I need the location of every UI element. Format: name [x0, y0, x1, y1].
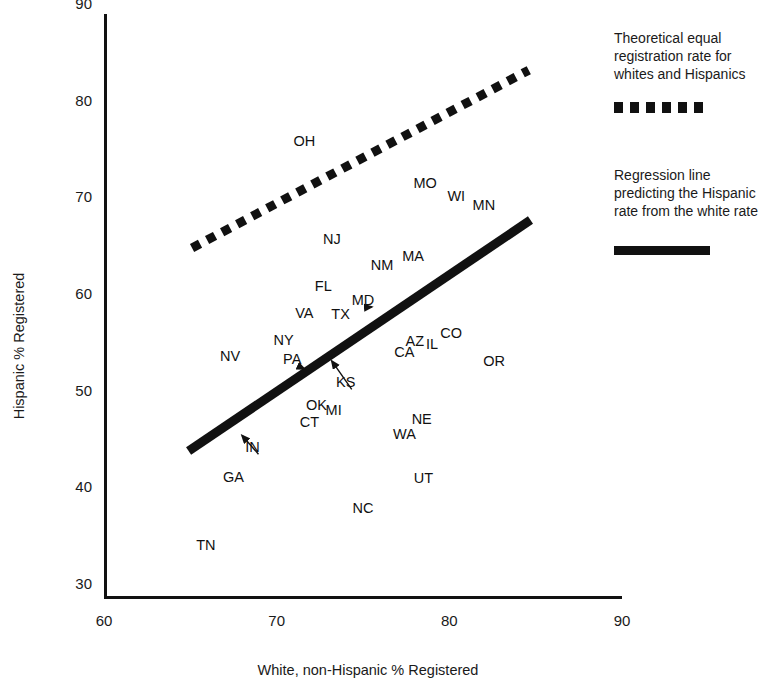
- legend-swatch-solid-line: [614, 246, 710, 255]
- data-point-label: UT: [414, 471, 433, 486]
- data-point-label: GA: [223, 470, 244, 485]
- y-tick-label: 40: [75, 478, 92, 495]
- y-axis-title: Hispanic % Registered: [11, 236, 27, 456]
- data-point-label: VA: [295, 306, 313, 321]
- data-point-label: CO: [440, 326, 462, 341]
- data-point-label: MD: [352, 293, 375, 308]
- x-tick-label: 80: [441, 612, 458, 629]
- data-point-label: TN: [196, 538, 215, 553]
- legend-entry-theoretical: Theoretical equal registration rate for …: [614, 30, 759, 113]
- data-point-label: IL: [426, 336, 438, 351]
- legend: Theoretical equal registration rate for …: [614, 30, 759, 265]
- data-point-label: MI: [326, 403, 342, 418]
- data-point-label: NM: [371, 258, 394, 273]
- data-point-label: WA: [393, 426, 416, 441]
- data-point-label: TX: [331, 307, 350, 322]
- x-tick-label: 60: [96, 612, 113, 629]
- legend-label-regression: Regression line predicting the Hispanic …: [614, 167, 759, 221]
- data-point-label: CT: [300, 415, 319, 430]
- x-axis-line: [104, 596, 622, 599]
- x-tick-label: 90: [614, 612, 631, 629]
- data-point-label: KS: [336, 375, 355, 390]
- data-point-label: CA: [394, 345, 414, 360]
- y-tick-label: 90: [75, 0, 92, 12]
- scatter-plot-figure: White, non-Hispanic % Registered Hispani…: [0, 0, 762, 699]
- y-axis-ticks: 90807060504030: [58, 0, 92, 585]
- data-point-label: IN: [245, 440, 260, 455]
- x-axis-title: White, non-Hispanic % Registered: [0, 662, 736, 678]
- y-tick-label: 80: [75, 91, 92, 108]
- data-point-label: PA: [283, 352, 301, 367]
- legend-entry-regression: Regression line predicting the Hispanic …: [614, 167, 759, 256]
- data-point-label: NJ: [323, 232, 341, 247]
- data-point-label: OR: [483, 354, 505, 369]
- legend-swatch-dotted-line: [614, 102, 710, 113]
- y-tick-label: 30: [75, 575, 92, 592]
- x-tick-label: 70: [268, 612, 285, 629]
- y-tick-label: 70: [75, 188, 92, 205]
- data-point-label: NV: [220, 349, 240, 364]
- data-point-label: OK: [306, 397, 327, 412]
- data-point-label: MN: [473, 197, 496, 212]
- y-axis-line: [104, 14, 107, 599]
- data-point-label: OH: [293, 133, 315, 148]
- data-point-label: NC: [353, 501, 374, 516]
- y-tick-label: 50: [75, 381, 92, 398]
- data-point-label: WI: [447, 189, 465, 204]
- plot-area: OHMOWIMNNJMANMFLMDVATXCOAZILNYCAPANVORKS…: [104, 14, 622, 599]
- y-tick-label: 60: [75, 285, 92, 302]
- data-point-label: FL: [315, 278, 332, 293]
- data-point-label: NE: [412, 412, 432, 427]
- x-axis-ticks: 60708090: [104, 612, 622, 634]
- data-point-label: NY: [273, 333, 293, 348]
- data-point-label: MO: [413, 176, 436, 191]
- data-point-label: MA: [402, 249, 424, 264]
- legend-label-theoretical: Theoretical equal registration rate for …: [614, 30, 759, 84]
